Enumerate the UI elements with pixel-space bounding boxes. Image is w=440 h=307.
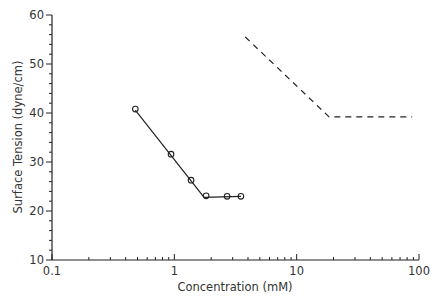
x-tick-label: 0.1: [43, 264, 61, 278]
x-tick-label: 1: [171, 264, 178, 278]
y-tick-label: 30: [29, 155, 44, 169]
reference-line: [245, 37, 412, 117]
y-tick-label: 20: [29, 204, 44, 218]
x-tick-label: 10: [289, 264, 304, 278]
y-axis-label: Surface Tension (dyne/cm): [11, 61, 25, 214]
y-tick-label: 40: [29, 106, 44, 120]
surface-tension-chart: 0.1110100102030405060 Concentration (mM)…: [0, 0, 440, 307]
y-tick-label: 50: [29, 57, 44, 71]
x-axis-label: Concentration (mM): [177, 280, 292, 294]
x-tick-label: 100: [408, 264, 430, 278]
y-tick-label: 60: [29, 8, 44, 22]
y-tick-label: 10: [29, 253, 44, 267]
fit-line: [135, 110, 241, 197]
plot-area: [133, 37, 413, 199]
axes: 0.1110100102030405060: [29, 8, 430, 278]
